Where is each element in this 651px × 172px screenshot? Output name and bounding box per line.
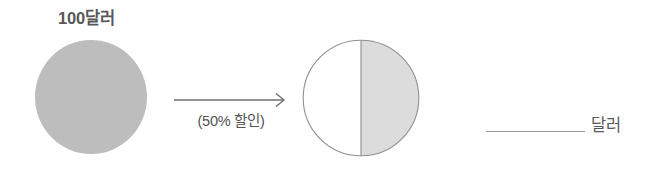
original-amount-label: 100달러 — [58, 5, 178, 29]
half-shaded-circle-icon — [302, 39, 420, 157]
half-shaded-circle-group — [302, 39, 420, 157]
worksheet-canvas: 100달러 (50% 할인) 달러 — [0, 0, 651, 172]
discount-label: (50% 할인) — [172, 109, 290, 130]
answer-blank-input[interactable] — [486, 131, 585, 132]
answer-group: 달러 — [486, 112, 631, 144]
answer-unit-label: 달러 — [591, 112, 621, 136]
transform-arrow-group: (50% 할인) — [172, 88, 290, 132]
full-circle-icon — [35, 40, 147, 154]
